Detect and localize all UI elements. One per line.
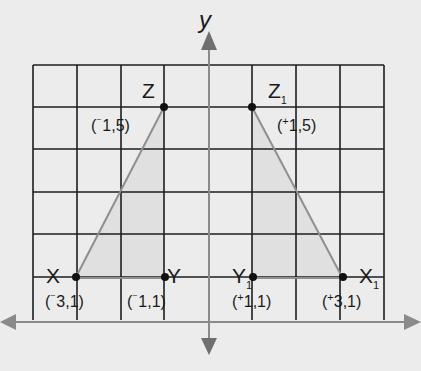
coord-z: (⁻1,5): [91, 118, 130, 134]
coord-y1: (+1,1): [232, 294, 271, 310]
y-axis-label: y: [199, 8, 211, 32]
point-x1: [339, 273, 347, 281]
y-axis-down-arrow-icon: [201, 338, 217, 355]
coord-x1: (+3,1): [322, 294, 361, 310]
x-axis-left-arrow-icon: [0, 314, 16, 330]
grid-svg: [0, 0, 421, 371]
coord-x: (⁻3,1): [45, 294, 84, 310]
point-x: [72, 273, 80, 281]
label-y: Y: [167, 265, 181, 286]
point-z: [160, 103, 168, 111]
label-y1: Y1: [232, 265, 252, 286]
coord-y: (⁻1,1): [127, 294, 166, 310]
label-x1: X1: [359, 265, 379, 286]
x-axis-right-arrow-icon: [404, 314, 421, 330]
label-x: X: [46, 265, 60, 286]
label-z1: Z1: [268, 80, 287, 101]
coord-z1: (+1,5): [277, 118, 316, 134]
label-z: Z: [142, 80, 155, 101]
coordinate-diagram: y Z X Y Z1 Y1 X1 (⁻1,5) (⁻3,1) (⁻1,1) (+…: [0, 0, 421, 371]
y-axis-up-arrow-icon: [201, 31, 217, 50]
point-z1: [248, 103, 256, 111]
